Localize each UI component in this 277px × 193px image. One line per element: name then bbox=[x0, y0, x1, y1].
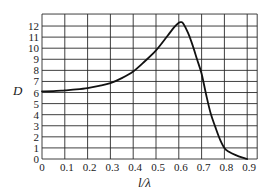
y-tick-label: 9 bbox=[34, 53, 40, 65]
y-tick-label: 4 bbox=[34, 109, 40, 121]
y-tick-label: 3 bbox=[34, 120, 40, 132]
x-tick-label: 0.8 bbox=[220, 161, 234, 173]
y-tick-label: 6 bbox=[34, 87, 40, 99]
y-tick-label: 12 bbox=[28, 20, 39, 32]
grid bbox=[42, 14, 257, 159]
x-tick-label: 0.1 bbox=[60, 161, 74, 173]
x-axis-tick-labels: 00.10.20.30.40.50.60.70.80.9 bbox=[39, 161, 256, 173]
line-chart: 0123456789101112 00.10.20.30.40.50.60.70… bbox=[0, 0, 277, 193]
data-series-curve bbox=[42, 22, 247, 159]
x-tick-label: 0.3 bbox=[106, 161, 120, 173]
x-tick-label: 0.5 bbox=[151, 161, 165, 173]
x-tick-label: 0.4 bbox=[128, 161, 142, 173]
x-tick-label: 0.9 bbox=[242, 161, 256, 173]
x-axis-title: l/λ bbox=[138, 175, 151, 190]
x-tick-label: 0.7 bbox=[197, 161, 211, 173]
y-tick-label: 1 bbox=[34, 142, 40, 154]
y-tick-label: 2 bbox=[34, 131, 40, 143]
chart: 0123456789101112 00.10.20.30.40.50.60.70… bbox=[0, 0, 277, 193]
x-tick-label: 0.6 bbox=[174, 161, 188, 173]
y-tick-label: 8 bbox=[34, 64, 40, 76]
y-tick-label: 7 bbox=[34, 75, 40, 87]
y-tick-label: 11 bbox=[28, 31, 39, 43]
y-tick-label: 10 bbox=[28, 42, 40, 54]
x-tick-label: 0 bbox=[39, 161, 45, 173]
y-axis-title: D bbox=[12, 83, 23, 98]
y-axis-tick-labels: 0123456789101112 bbox=[28, 20, 40, 165]
x-tick-label: 0.2 bbox=[83, 161, 97, 173]
y-tick-label: 5 bbox=[34, 98, 40, 110]
